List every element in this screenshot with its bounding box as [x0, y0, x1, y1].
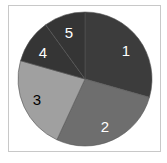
slice-label-5: 5	[65, 24, 73, 41]
slice-label-2: 2	[101, 118, 109, 135]
slice-label-1: 1	[122, 42, 130, 59]
pie-slices	[18, 12, 152, 146]
slice-label-3: 3	[33, 91, 41, 108]
pie-chart: 1 2 3 4 5	[0, 0, 167, 163]
slice-label-4: 4	[39, 44, 47, 61]
